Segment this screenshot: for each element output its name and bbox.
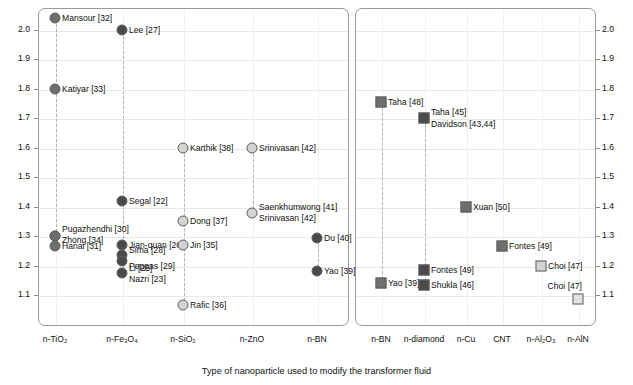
data-point-marker[interactable] (117, 25, 128, 36)
data-point-marker[interactable] (178, 300, 189, 311)
y-axis-tick-label: 1.6 (602, 142, 628, 152)
connector-stem (253, 149, 254, 214)
data-point-marker[interactable] (536, 260, 547, 271)
y-axis-tick-mark (34, 89, 38, 90)
x-axis-tick-label: CNT (493, 334, 511, 344)
x-axis-tick-label: n-BN (371, 334, 391, 344)
y-axis-tick-mark (596, 236, 600, 237)
x-axis-tick-label: n-Fe₃O₄ (106, 334, 137, 344)
data-point-marker[interactable] (312, 266, 323, 277)
gridline-horizontal (39, 267, 348, 268)
data-point-label: Rafic [36] (190, 300, 226, 310)
y-axis-tick-label: 1.8 (4, 83, 30, 93)
chart-figure: AC breakdown voltage enhancement ratio v… (0, 0, 633, 385)
data-point-label: Yao [39] (324, 266, 355, 276)
gridline-horizontal (39, 60, 348, 61)
data-point-marker[interactable] (117, 195, 128, 206)
y-axis-tick-label: 1.5 (602, 171, 628, 181)
y-axis-tick-label: 1.9 (602, 53, 628, 63)
data-point-marker[interactable] (419, 113, 430, 124)
data-point-marker[interactable] (178, 239, 189, 250)
data-point-label: Shukla [46] (431, 280, 474, 290)
data-point-label: Fontes [49] (431, 265, 474, 275)
data-point-marker[interactable] (573, 294, 584, 305)
data-point-marker[interactable] (419, 264, 430, 275)
data-point-marker[interactable] (247, 142, 258, 153)
x-axis-tick-label: n-TiO₂ (43, 334, 68, 344)
data-point-marker[interactable] (50, 83, 61, 94)
data-point-label: Taha [45] (431, 107, 466, 117)
y-axis-tick-mark (34, 236, 38, 237)
data-point-marker[interactable] (50, 13, 61, 24)
data-point-marker[interactable] (50, 241, 61, 252)
gridline-vertical (579, 9, 580, 325)
data-point-marker[interactable] (178, 216, 189, 227)
data-point-label: Jin [35] (190, 240, 218, 250)
data-point-label: Xuan [50] (473, 202, 510, 212)
data-point-label: Nazri [23] (129, 274, 166, 284)
y-axis-tick-label: 2.0 (4, 24, 30, 34)
y-axis-tick-mark (34, 30, 38, 31)
y-axis-tick-mark (596, 266, 600, 267)
y-axis-tick-mark (596, 118, 600, 119)
y-axis-tick-label: 1.3 (602, 230, 628, 240)
y-axis-tick-mark (34, 295, 38, 296)
connector-stem (382, 103, 383, 284)
panel-ac-breakdown-voltage (38, 8, 349, 326)
y-axis-tick-label: 1.7 (4, 112, 30, 122)
connector-stem (56, 19, 57, 247)
x-axis-tick-label: n-Cu (457, 334, 476, 344)
y-axis-tick-mark (596, 30, 600, 31)
data-point-marker[interactable] (376, 278, 387, 289)
data-point-marker[interactable] (376, 97, 387, 108)
data-point-marker[interactable] (461, 201, 472, 212)
x-axis-tick-label: n-Al₂O₃ (527, 334, 556, 344)
y-axis-tick-mark (34, 266, 38, 267)
gridline-horizontal (39, 296, 348, 297)
data-point-marker[interactable] (419, 279, 430, 290)
data-point-label: Dong [37] (190, 216, 227, 226)
y-axis-tick-label: 1.3 (4, 230, 30, 240)
gridline-vertical (318, 9, 319, 325)
x-axis-tick-label: n-BN (307, 334, 327, 344)
data-point-label: Choi [47] (548, 281, 582, 291)
connector-stem (425, 119, 426, 285)
data-point-label: Karthik [38] (190, 143, 233, 153)
gridline-horizontal (356, 149, 595, 150)
y-axis-tick-label: 1.6 (4, 142, 30, 152)
data-point-marker[interactable] (497, 241, 508, 252)
gridline-horizontal (356, 296, 595, 297)
gridline-horizontal (356, 178, 595, 179)
gridline-horizontal (39, 178, 348, 179)
data-point-label: Segal [22] (129, 196, 168, 206)
data-point-label: Lee [27] (129, 25, 160, 35)
x-axis-tick-label: n-diamond (404, 334, 445, 344)
data-point-label: Srinivasan [42] (259, 143, 316, 153)
data-point-marker[interactable] (117, 256, 128, 267)
data-point-label: Hanai [31] (62, 241, 101, 251)
data-point-label: Katiyar [33] (62, 84, 105, 94)
data-point-label: Mansour [32] (62, 13, 112, 23)
connector-stem (123, 31, 124, 274)
data-point-label: Li [25] (129, 263, 152, 273)
x-axis-tick-label: n-ZnO (240, 334, 264, 344)
data-point-label: Taha [48] (388, 97, 423, 107)
gridline-vertical (467, 9, 468, 325)
y-axis-tick-label: 1.9 (4, 53, 30, 63)
data-point-marker[interactable] (247, 207, 258, 218)
y-axis-tick-label: 1.4 (602, 201, 628, 211)
y-axis-tick-mark (596, 59, 600, 60)
y-axis-tick-label: 1.7 (602, 112, 628, 122)
gridline-horizontal (39, 31, 348, 32)
data-point-marker[interactable] (178, 142, 189, 153)
data-point-marker[interactable] (312, 232, 323, 243)
data-point-marker[interactable] (117, 267, 128, 278)
gridline-vertical (503, 9, 504, 325)
gridline-horizontal (356, 31, 595, 32)
y-axis-tick-label: 1.4 (4, 201, 30, 211)
data-point-label: Sima [28] (129, 245, 165, 255)
gridline-horizontal (356, 237, 595, 238)
data-point-label: Pugazhendhi [30] (62, 224, 129, 234)
y-axis-tick-label: 1.1 (602, 289, 628, 299)
connector-stem (184, 149, 185, 307)
